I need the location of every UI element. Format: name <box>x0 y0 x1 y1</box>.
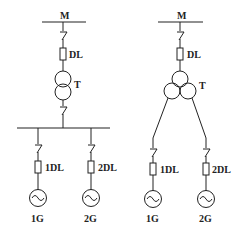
three-winding-transformer-icon <box>164 71 196 99</box>
breaker-1dl-icon <box>150 163 156 175</box>
breaker-1dl-icon <box>35 161 41 173</box>
branch-2: 2DL 2G <box>83 128 118 224</box>
generator-icon <box>198 191 215 208</box>
generator-2g-label: 2G <box>84 213 97 224</box>
generator-icon <box>83 190 100 207</box>
disconnect-switch-icon <box>35 145 42 161</box>
disconnect-switch-icon <box>177 32 184 48</box>
branch-1: 1DL 1G <box>145 98 180 224</box>
breaker-1dl-label: 1DL <box>160 164 179 175</box>
breaker-dl-icon <box>177 48 183 60</box>
breaker-dl-icon <box>60 48 66 60</box>
breaker-2dl-label: 2DL <box>212 164 231 175</box>
diagram-canvas: M DL T <box>0 0 243 237</box>
transformer-label: T <box>199 80 206 91</box>
disconnect-switch-icon <box>203 149 210 163</box>
generator-icon <box>145 191 162 208</box>
branch-2: 2DL 2G <box>192 98 231 224</box>
breaker-2dl-icon <box>88 161 94 173</box>
disconnect-switch-icon <box>60 32 67 48</box>
breaker-dl-label: DL <box>187 49 201 60</box>
breaker-2dl-icon <box>203 163 209 175</box>
left-diagram: M DL T <box>17 10 117 224</box>
right-diagram: M DL T 1DL <box>145 10 232 224</box>
disconnect-switch-icon <box>60 107 67 128</box>
generator-icon <box>30 190 47 207</box>
bus-m-label: M <box>177 10 187 21</box>
generator-2g-label: 2G <box>199 213 212 224</box>
generator-1g-label: 1G <box>146 213 159 224</box>
breaker-dl-label: DL <box>69 49 83 60</box>
branch-1: 1DL 1G <box>30 128 65 224</box>
breaker-1dl-label: 1DL <box>45 162 64 173</box>
transformer-icon <box>55 71 71 100</box>
transformer-label: T <box>74 79 81 90</box>
generator-1g-label: 1G <box>31 213 44 224</box>
disconnect-switch-icon <box>88 145 95 161</box>
bus-m-label: M <box>60 10 70 21</box>
disconnect-switch-icon <box>150 149 157 163</box>
breaker-2dl-label: 2DL <box>98 162 117 173</box>
